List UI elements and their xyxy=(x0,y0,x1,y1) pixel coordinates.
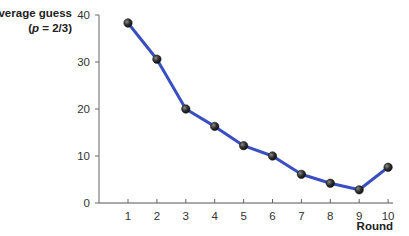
x-tick-label: 1 xyxy=(125,210,131,222)
data-point xyxy=(239,141,247,149)
axes: 01020304012345678910 xyxy=(77,9,394,222)
x-tick-label: 3 xyxy=(183,210,189,222)
data-series xyxy=(128,23,388,190)
data-point xyxy=(326,179,334,187)
x-axis-title: Round xyxy=(357,220,393,232)
data-point xyxy=(124,19,132,27)
y-tick-label: 40 xyxy=(77,9,90,21)
line-chart: 01020304012345678910 Round xyxy=(0,0,409,236)
x-tick-label: 2 xyxy=(154,210,160,222)
x-tick-label: 7 xyxy=(298,210,304,222)
data-markers xyxy=(124,19,393,194)
y-tick-label: 20 xyxy=(77,103,90,115)
data-point xyxy=(297,170,305,178)
y-tick-label: 0 xyxy=(84,197,90,209)
data-point xyxy=(153,55,161,63)
y-tick-label: 30 xyxy=(77,56,90,68)
data-point xyxy=(211,122,219,130)
x-tick-label: 8 xyxy=(327,210,333,222)
data-point xyxy=(355,186,363,194)
data-point xyxy=(182,105,190,113)
series-line xyxy=(128,23,388,190)
data-point xyxy=(268,152,276,160)
x-tick-label: 6 xyxy=(269,210,275,222)
data-point xyxy=(384,163,392,171)
y-tick-label: 10 xyxy=(77,150,90,162)
x-tick-label: 4 xyxy=(211,210,218,222)
x-tick-label: 5 xyxy=(240,210,246,222)
